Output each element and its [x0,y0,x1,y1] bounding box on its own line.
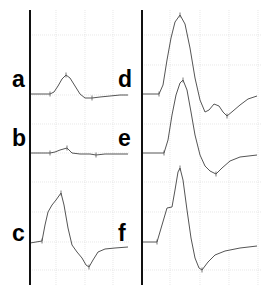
trace-d [142,15,257,116]
trace-c [30,193,128,267]
label-f: f [118,220,126,246]
trace-b [30,148,128,155]
label-e: e [118,125,131,151]
waveform-figure: a b c d e f [0,0,267,292]
label-d: d [118,66,132,92]
label-b: b [12,125,26,151]
trace-a [30,75,128,98]
traces [30,13,257,273]
label-a: a [12,66,25,92]
label-c: c [12,220,25,246]
gridlines [30,10,262,285]
trace-f [142,168,257,270]
